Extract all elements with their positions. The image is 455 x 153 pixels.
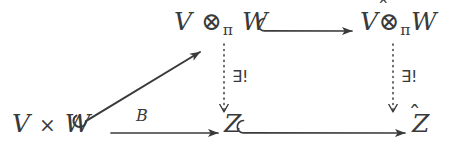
- node-top-right-w: W: [411, 7, 437, 36]
- tensor-glyph: ⊗: [201, 7, 222, 36]
- hat-glyph: ̂: [421, 103, 422, 124]
- node-top-left-pi: π: [223, 21, 234, 39]
- edge-label-exists-left: ∃!: [232, 69, 249, 85]
- node-top-right: V̂⊗πW: [360, 9, 437, 38]
- tensor-icon: ⊗: [201, 9, 222, 34]
- node-top-left-v: V: [174, 7, 193, 36]
- node-bottom-middle: Z: [224, 111, 242, 136]
- commutative-diagram: V (x)_pi W --> Z --> V ⊗π W V̂⊗πW: [0, 0, 455, 153]
- node-bottom-left-v: V: [12, 109, 31, 138]
- hat-glyph: ̂: [389, 0, 390, 21]
- edge-label-b: B: [136, 108, 148, 124]
- node-bottom-middle-z: Z: [224, 109, 242, 138]
- node-top-right-pi: π: [400, 21, 411, 39]
- node-top-left-w: W: [242, 7, 268, 36]
- node-top-right-v: V: [360, 7, 379, 36]
- node-bottom-right: ̂Z: [412, 111, 430, 136]
- edge-top-inclusion: [258, 19, 352, 32]
- times-glyph: ×: [39, 113, 56, 137]
- edge-label-exists-right: ∃!: [401, 69, 418, 85]
- node-bottom-left-w: W: [65, 109, 91, 138]
- edge-bottom-inclusion: [237, 121, 405, 134]
- z-hat-icon: ̂Z: [412, 111, 430, 136]
- node-top-left: V ⊗π W: [174, 9, 268, 38]
- tensor-hat-icon: ̂⊗: [379, 9, 400, 34]
- node-bottom-left: V × W: [12, 111, 91, 136]
